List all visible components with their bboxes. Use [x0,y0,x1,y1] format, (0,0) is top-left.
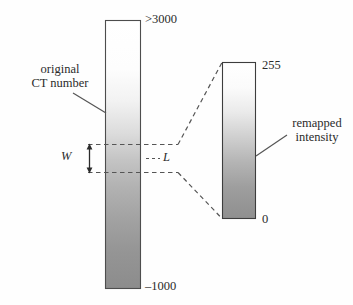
leader-line-original-ct [73,93,106,113]
left-bar-bottom-value-label: –1000 [145,279,176,293]
right-bar-top-value-label: 255 [262,58,281,72]
connector-top-diagonal [178,63,222,145]
window-level-symbol-label: L [163,150,170,164]
original-ct-number-label-line2: CT number [14,76,106,90]
left-bar-gradient [106,21,141,289]
figure-canvas [0,0,353,305]
remapped-intensity-label-line2: intensity [283,130,351,144]
right-bar-bottom-value-label: 0 [262,212,268,226]
connector-bottom-diagonal [178,173,222,219]
remapped-intensity-label: remapped intensity [283,116,351,144]
remapped-intensity-label-line1: remapped [283,116,351,130]
left-bar-top-value-label: >3000 [145,12,177,26]
right-bar-gradient [223,63,256,219]
original-ct-number-label: original CT number [14,62,106,90]
original-ct-number-label-line1: original [14,62,106,76]
window-width-symbol-label: W [61,149,71,163]
ct-window-level-figure: >3000 –1000 original CT number remapped … [0,0,353,305]
